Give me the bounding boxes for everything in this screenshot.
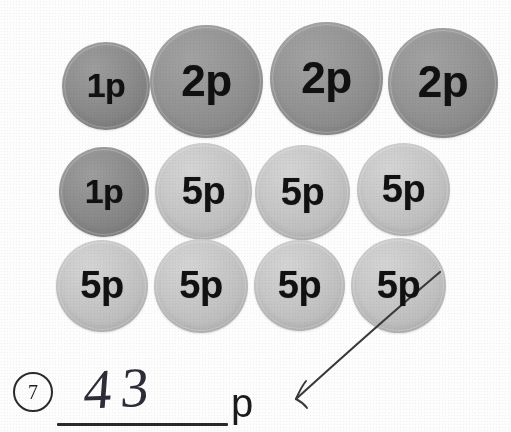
answer-blank-rule xyxy=(57,423,228,426)
coin-denomination-label: 5p xyxy=(80,266,123,304)
coin-5p: 5p xyxy=(56,240,148,332)
coin-denomination-label: 5p xyxy=(382,170,425,208)
handwritten-answer: 43 xyxy=(82,354,161,422)
coin-denomination-label: 5p xyxy=(278,266,321,304)
pence-unit-label: p xyxy=(231,383,253,423)
coin-5p: 5p xyxy=(155,143,252,240)
answer-area: 7 43 p xyxy=(0,352,511,432)
coin-denomination-label: 2p xyxy=(301,56,351,100)
coin-5p: 5p xyxy=(254,240,345,331)
coin-denomination-label: 2p xyxy=(418,60,468,104)
coin-1p: 1p xyxy=(59,147,149,237)
question-number-badge: 7 xyxy=(13,372,53,412)
coin-denomination-label: 5p xyxy=(182,172,225,210)
coin-denomination-label: 5p xyxy=(377,266,420,304)
coin-denomination-label: 5p xyxy=(281,173,324,211)
coin-denomination-label: 2p xyxy=(181,59,231,103)
worksheet-page: 1p2p2p2p1p5p5p5p5p5p5p5p 7 43 p xyxy=(0,0,511,432)
coin-5p: 5p xyxy=(357,143,450,236)
coin-2p: 2p xyxy=(270,22,383,135)
coin-2p: 2p xyxy=(388,28,498,138)
coin-5p: 5p xyxy=(351,238,446,333)
coin-denomination-label: 1p xyxy=(87,68,126,102)
coin-denomination-label: 1p xyxy=(85,174,124,208)
coin-5p: 5p xyxy=(154,239,248,333)
coin-2p: 2p xyxy=(150,25,263,138)
question-number-text: 7 xyxy=(28,381,38,404)
coin-5p: 5p xyxy=(255,145,350,240)
coin-denomination-label: 5p xyxy=(179,266,222,304)
coin-1p: 1p xyxy=(62,42,150,130)
